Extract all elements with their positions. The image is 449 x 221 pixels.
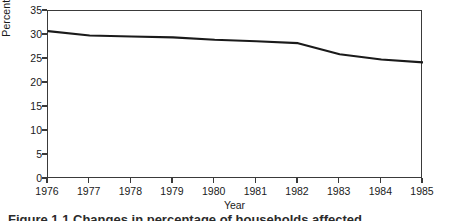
figure-container: Percentage of households affected 051015… [0, 0, 449, 221]
x-axis-title: Year [47, 199, 422, 211]
plot-area [47, 10, 422, 178]
x-tick-label: 1982 [277, 185, 317, 197]
y-tick-label: 15 [22, 101, 42, 111]
x-tick-label: 1985 [402, 185, 442, 197]
x-tick-label: 1979 [152, 185, 192, 197]
y-tick-label: 30 [22, 29, 42, 39]
y-tick-label: 10 [22, 125, 42, 135]
x-axis-tick-marks [47, 178, 422, 184]
x-tick-mark [380, 178, 381, 183]
x-tick-label: 1978 [110, 185, 150, 197]
x-tick-mark [421, 178, 422, 183]
x-tick-mark [130, 178, 131, 183]
y-tick-label: 35 [22, 5, 42, 15]
data-line-households-affected [48, 31, 423, 62]
x-tick-label: 1976 [27, 185, 67, 197]
x-tick-label: 1981 [235, 185, 275, 197]
x-tick-mark [171, 178, 172, 183]
x-tick-label: 1983 [319, 185, 359, 197]
x-tick-mark [296, 178, 297, 183]
y-axis-title: Percentage of households affected [0, 0, 14, 38]
x-tick-mark [338, 178, 339, 183]
y-tick-label: 25 [22, 53, 42, 63]
x-tick-mark [213, 178, 214, 183]
y-axis-tick-labels: 05101520253035 [20, 10, 42, 178]
x-tick-mark [255, 178, 256, 183]
x-axis-tick-labels: 1976197719781979198019811982198319841985 [47, 185, 422, 198]
x-tick-label: 1977 [69, 185, 109, 197]
x-tick-label: 1984 [360, 185, 400, 197]
y-tick-label: 20 [22, 77, 42, 87]
x-tick-mark [46, 178, 47, 183]
figure-caption: Figure 1.1 Changes in percentage of hous… [8, 212, 438, 221]
line-series-svg [48, 11, 423, 179]
y-tick-label: 5 [22, 149, 42, 159]
x-tick-mark [88, 178, 89, 183]
x-tick-label: 1980 [194, 185, 234, 197]
y-tick-label: 0 [22, 173, 42, 183]
